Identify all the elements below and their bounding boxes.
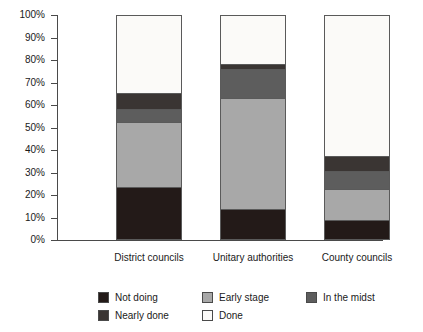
- bar-segment-early-stage: [117, 123, 181, 188]
- y-axis-tick: [51, 105, 58, 106]
- y-axis-tick: [51, 83, 58, 84]
- legend-item[interactable]: Done: [202, 310, 306, 321]
- stacked-bar-chart: 0%10%20%30%40%50%60%70%80%90%100% Distri…: [0, 0, 423, 332]
- legend-swatch-icon: [202, 292, 213, 303]
- bar-unitary-authorities: [220, 15, 286, 240]
- bar-segment-done: [221, 16, 285, 65]
- y-axis-tick-label: 10%: [1, 213, 45, 223]
- bar-segment-not-doing: [325, 221, 389, 239]
- bar-segment-nearly-done: [325, 157, 389, 173]
- y-axis-tick-label: 80%: [1, 55, 45, 65]
- y-axis-tick-label: 60%: [1, 100, 45, 110]
- y-axis-tick: [51, 195, 58, 196]
- y-axis-tick-label: 40%: [1, 145, 45, 155]
- legend-row-2: Nearly doneDone: [98, 306, 398, 324]
- y-axis-tick-label: 0%: [1, 235, 45, 245]
- y-axis-tick: [51, 128, 58, 129]
- legend-swatch-icon: [98, 292, 109, 303]
- y-axis-tick: [51, 218, 58, 219]
- y-axis-tick-label: 30%: [1, 168, 45, 178]
- legend-item[interactable]: In the midst: [306, 292, 398, 303]
- legend-item[interactable]: Nearly done: [98, 310, 202, 321]
- legend-label: Nearly done: [115, 310, 169, 321]
- y-axis-tick-label: 50%: [1, 123, 45, 133]
- x-axis-label: Unitary authorities: [193, 252, 313, 264]
- y-axis-tick: [51, 60, 58, 61]
- legend-swatch-icon: [98, 310, 109, 321]
- legend-item[interactable]: Early stage: [202, 292, 306, 303]
- y-axis-tick-label: 90%: [1, 33, 45, 43]
- x-axis-label: County councils: [297, 252, 417, 264]
- legend-swatch-icon: [202, 310, 213, 321]
- legend-label: Early stage: [219, 292, 269, 303]
- bar-segment-not-doing: [117, 188, 181, 239]
- legend-label: Done: [219, 310, 243, 321]
- legend-label: In the midst: [323, 292, 375, 303]
- x-axis-line: [57, 240, 383, 241]
- y-axis-tick: [51, 173, 58, 174]
- bar-segment-early-stage: [325, 190, 389, 221]
- y-axis-tick: [51, 150, 58, 151]
- legend-row-1: Not doingEarly stageIn the midst: [98, 288, 398, 306]
- bar-segment-nearly-done: [117, 94, 181, 110]
- legend-swatch-icon: [306, 292, 317, 303]
- y-axis-tick-label: 100%: [1, 10, 45, 20]
- bar-segment-done: [117, 16, 181, 94]
- y-axis-tick: [51, 38, 58, 39]
- bar-county-councils: [324, 15, 390, 240]
- y-axis-tick: [51, 15, 58, 16]
- bar-segment-done: [325, 16, 389, 156]
- y-axis-tick-label: 20%: [1, 190, 45, 200]
- bar-segment-in-the-midst: [325, 172, 389, 190]
- bar-segment-not-doing: [221, 210, 285, 239]
- y-axis-tick: [51, 240, 58, 241]
- plot-area: [58, 15, 383, 240]
- y-axis-tick-label: 70%: [1, 78, 45, 88]
- legend-label: Not doing: [115, 292, 158, 303]
- bar-district-councils: [116, 15, 182, 240]
- bar-segment-early-stage: [221, 99, 285, 211]
- legend-item[interactable]: Not doing: [98, 292, 202, 303]
- chart-legend: Not doingEarly stageIn the midst Nearly …: [98, 288, 398, 324]
- bar-segment-in-the-midst: [117, 110, 181, 123]
- x-axis-label: District councils: [89, 252, 209, 264]
- bar-segment-in-the-midst: [221, 70, 285, 99]
